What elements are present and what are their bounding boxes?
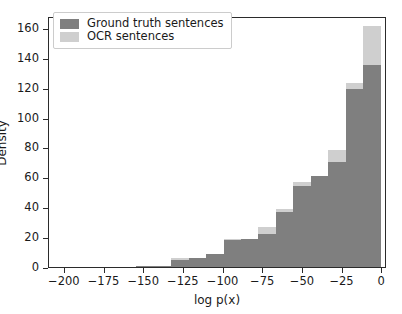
y-tick-label: 100	[0, 113, 39, 125]
y-tick	[43, 268, 48, 269]
plot-area	[48, 17, 386, 268]
histogram-bar	[206, 254, 223, 267]
y-tick	[43, 148, 48, 149]
histogram-bar	[311, 176, 328, 267]
histogram-bar	[136, 266, 153, 267]
x-tick	[302, 268, 303, 273]
y-tick-label: 20	[0, 232, 39, 244]
y-tick	[43, 238, 48, 239]
histogram-bar	[346, 89, 363, 267]
y-tick-label: 40	[0, 202, 39, 214]
x-tick-label: 0	[378, 276, 385, 288]
x-tick-label: −75	[250, 276, 274, 288]
histogram-bar	[258, 234, 275, 267]
x-tick	[104, 268, 105, 273]
x-axis-label: log p(x)	[194, 293, 240, 307]
legend-item-ocr: OCR sentences	[60, 31, 224, 43]
legend-label-ground-truth: Ground truth sentences	[87, 18, 224, 30]
x-tick-label: −125	[167, 276, 199, 288]
x-tick-label: −25	[329, 276, 353, 288]
x-tick-label: −200	[48, 276, 80, 288]
histogram-bar	[363, 65, 380, 267]
y-tick	[43, 89, 48, 90]
y-tick	[43, 208, 48, 209]
histogram-bar	[293, 186, 310, 267]
histogram-bar	[171, 260, 188, 267]
y-tick	[43, 29, 48, 30]
histogram-bar	[224, 240, 241, 267]
legend-item-ground-truth: Ground truth sentences	[60, 18, 224, 30]
y-tick	[43, 178, 48, 179]
y-tick-label: 160	[0, 23, 39, 35]
y-tick	[43, 59, 48, 60]
legend-swatch-ground-truth	[60, 19, 79, 29]
histogram-bars	[49, 18, 385, 267]
x-tick	[223, 268, 224, 273]
y-tick	[43, 119, 48, 120]
x-tick	[143, 268, 144, 273]
histogram-bar	[328, 162, 345, 267]
y-tick-label: 0	[0, 262, 39, 274]
x-tick	[262, 268, 263, 273]
x-tick	[64, 268, 65, 273]
y-tick-label: 120	[0, 83, 39, 95]
chart-legend: Ground truth sentences OCR sentences	[53, 12, 232, 49]
y-tick-label: 80	[0, 142, 39, 154]
legend-label-ocr: OCR sentences	[87, 31, 174, 43]
x-tick	[342, 268, 343, 273]
histogram-bar	[154, 266, 171, 267]
x-tick	[183, 268, 184, 273]
y-tick-label: 140	[0, 53, 39, 65]
histogram-figure: Density log p(x) 020406080100120140160 −…	[0, 0, 402, 314]
x-tick-label: −100	[207, 276, 239, 288]
legend-swatch-ocr	[60, 32, 79, 42]
histogram-bar	[276, 212, 293, 267]
x-tick-label: −150	[127, 276, 159, 288]
x-tick-label: −175	[88, 276, 120, 288]
x-tick	[381, 268, 382, 273]
histogram-bar	[189, 258, 206, 267]
histogram-bar	[241, 239, 258, 267]
y-tick-label: 60	[0, 172, 39, 184]
x-tick-label: −50	[290, 276, 314, 288]
